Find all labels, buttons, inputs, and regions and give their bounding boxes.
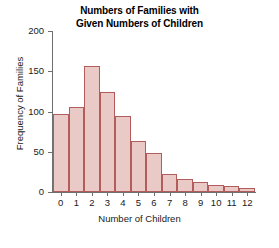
bar-series (53, 31, 255, 192)
x-tick-5 (138, 193, 139, 196)
x-tick-label-12: 12 (242, 198, 253, 208)
bar-11 (224, 186, 240, 192)
bar-5 (131, 141, 147, 192)
x-tick-label-3: 3 (105, 198, 110, 208)
x-tick-label-5: 5 (136, 198, 141, 208)
bar-9 (193, 182, 209, 192)
x-tick-6 (154, 193, 155, 196)
chart-title-line-1: Numbers of Families with (0, 5, 279, 18)
y-tick-label-100: 100 (0, 107, 44, 117)
x-tick-label-8: 8 (182, 198, 187, 208)
x-axis-title: Number of Children (0, 213, 279, 224)
x-tick-label-1: 1 (74, 198, 79, 208)
y-tick-label-0: 0 (0, 187, 44, 197)
x-tick-label-6: 6 (151, 198, 156, 208)
x-tick-0 (61, 193, 62, 196)
y-tick-label-200: 200 (0, 26, 44, 36)
y-tick-0 (48, 192, 53, 193)
x-tick-3 (107, 193, 108, 196)
x-tick-label-0: 0 (58, 198, 63, 208)
x-tick-4 (123, 193, 124, 196)
bar-2 (84, 66, 100, 192)
x-tick-12 (247, 193, 248, 196)
x-tick-8 (185, 193, 186, 196)
x-tick-label-10: 10 (211, 198, 222, 208)
x-tick-label-11: 11 (227, 198, 237, 208)
bar-7 (162, 174, 178, 192)
x-tick-7 (170, 193, 171, 196)
bar-0 (53, 114, 69, 192)
bar-4 (115, 116, 131, 192)
bar-3 (100, 92, 116, 192)
bar-1 (69, 107, 85, 192)
bar-10 (208, 185, 224, 192)
x-tick-11 (232, 193, 233, 196)
y-tick-label-50: 50 (0, 147, 44, 157)
x-tick-2 (92, 193, 93, 196)
x-tick-label-7: 7 (167, 198, 172, 208)
page-edge-artifact (0, 239, 279, 248)
bar-8 (177, 179, 193, 192)
x-tick-9 (201, 193, 202, 196)
bar-12 (239, 188, 255, 192)
x-tick-label-2: 2 (89, 198, 94, 208)
histogram-figure: Numbers of Families with Given Numbers o… (0, 0, 279, 248)
bar-6 (146, 153, 162, 192)
x-tick-10 (216, 193, 217, 196)
y-tick-label-150: 150 (0, 66, 44, 76)
x-tick-1 (76, 193, 77, 196)
x-tick-label-9: 9 (198, 198, 203, 208)
x-tick-label-4: 4 (120, 198, 125, 208)
